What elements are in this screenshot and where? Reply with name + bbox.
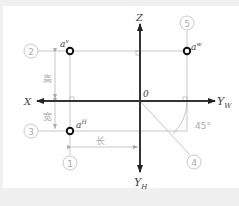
- svg-text:1: 1: [67, 159, 73, 169]
- yw-label: YW: [217, 95, 232, 110]
- width-label: 宽: [43, 111, 52, 122]
- x-label: X: [23, 96, 32, 107]
- dimension-labels: 高 宽 长 45°: [43, 73, 211, 146]
- svg-text:2: 2: [28, 47, 34, 57]
- aw-label: aw: [191, 40, 202, 52]
- yh-label: YH: [134, 176, 148, 191]
- svg-text:3: 3: [28, 127, 34, 137]
- svg-text:5: 5: [184, 19, 190, 29]
- height-label: 高: [43, 73, 52, 84]
- ah-label: aH: [76, 118, 87, 130]
- origin-label: 0: [143, 89, 149, 99]
- av-label: av: [60, 37, 69, 49]
- angle-label: 45°: [195, 121, 211, 131]
- point-aw: [184, 48, 190, 54]
- projection-lines: [38, 31, 190, 155]
- svg-text:4: 4: [191, 158, 197, 168]
- point-ah: [67, 128, 73, 134]
- projection-diagram: 2 3 1 5 4 X Z 0 YW YH av aw aH 高 宽 长 45°: [0, 0, 239, 206]
- point-av: [67, 48, 73, 54]
- z-label: Z: [135, 12, 144, 23]
- length-label: 长: [96, 135, 105, 146]
